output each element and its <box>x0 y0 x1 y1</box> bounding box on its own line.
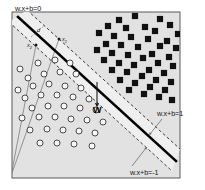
positive-class-point <box>105 23 111 29</box>
negative-class-point <box>77 105 83 111</box>
positive-class-point <box>168 79 174 85</box>
positive-class-point <box>126 87 132 93</box>
negative-class-point <box>60 127 66 133</box>
negative-class-point <box>22 95 28 101</box>
negative-class-point <box>76 128 82 134</box>
positive-class-point <box>142 24 148 30</box>
positive-class-point <box>146 67 152 73</box>
support-point-2-marker <box>35 44 38 47</box>
negative-class-point <box>89 143 95 149</box>
negative-class-point <box>37 140 43 146</box>
negative-class-point <box>71 141 77 147</box>
negative-class-point <box>54 92 60 98</box>
negative-class-point <box>54 140 60 146</box>
negative-class-point <box>92 130 98 136</box>
positive-class-point <box>166 54 172 60</box>
negative-class-point <box>46 81 52 87</box>
negative-class-point <box>52 57 58 63</box>
positive-class-point <box>153 77 159 83</box>
diagram-canvas: w.x+b=0 w.x+b=1 w.x+b=-1 W d x1 x2 <box>0 0 205 190</box>
positive-class-point <box>124 69 130 75</box>
negative-class-point <box>84 117 90 123</box>
positive-class-point <box>152 28 158 34</box>
positive-class-point <box>169 97 175 103</box>
negative-class-point <box>67 60 73 66</box>
negative-class-point <box>52 114 58 120</box>
positive-class-point <box>162 87 168 93</box>
label-margin-positive: w.x+b=1 <box>156 109 183 118</box>
negative-class-point <box>38 92 44 98</box>
negative-class-point <box>78 85 84 91</box>
positive-class-point <box>103 41 109 47</box>
positive-class-point <box>155 60 161 66</box>
positive-class-point <box>117 77 123 83</box>
label-hyperplane: w.x+b=0 <box>14 4 41 13</box>
label-support-point-1-subscript: 1 <box>65 39 67 44</box>
negative-class-point <box>61 103 67 109</box>
negative-class-point <box>15 87 21 93</box>
positive-class-point <box>109 67 115 73</box>
positive-class-point <box>140 55 146 61</box>
positive-class-point <box>161 70 167 76</box>
negative-class-point <box>44 126 50 132</box>
negative-class-point <box>41 71 47 77</box>
positive-class-point <box>118 42 124 48</box>
negative-class-point <box>19 115 25 121</box>
negative-class-point <box>29 105 35 111</box>
positive-class-point <box>94 47 100 53</box>
positive-class-point <box>131 62 137 68</box>
positive-class-point <box>128 34 134 40</box>
negative-class-point <box>100 119 106 125</box>
positive-class-point <box>173 45 179 51</box>
svm-margin-diagram: w.x+b=0 w.x+b=1 w.x+b=-1 W d x1 x2 <box>0 0 205 190</box>
positive-class-point <box>135 44 141 50</box>
support-point-1-marker <box>58 38 61 41</box>
positive-class-point <box>156 94 162 100</box>
negative-class-point <box>27 127 33 133</box>
negative-class-point <box>62 83 68 89</box>
negative-class-point <box>25 75 31 81</box>
positive-class-point <box>111 33 117 39</box>
positive-class-point <box>149 51 155 57</box>
positive-class-point <box>167 22 173 28</box>
negative-class-point <box>17 66 23 72</box>
positive-class-point <box>147 84 153 90</box>
positive-class-point <box>125 52 131 58</box>
positive-class-point <box>116 17 122 23</box>
positive-class-point <box>116 60 122 66</box>
positive-class-point <box>145 36 151 42</box>
positive-class-point <box>164 38 170 44</box>
negative-class-point <box>45 103 51 109</box>
positive-class-point <box>123 25 129 31</box>
label-margin-negative: w.x+b=-1 <box>129 168 158 177</box>
negative-class-point <box>30 83 36 89</box>
label-normal-vector: W <box>93 105 102 115</box>
positive-class-point <box>101 57 107 63</box>
negative-class-point <box>73 71 79 77</box>
negative-class-point <box>36 114 42 120</box>
positive-class-point <box>132 13 138 19</box>
negative-class-point <box>86 96 92 102</box>
positive-class-point <box>170 63 176 69</box>
positive-class-point <box>109 50 115 56</box>
negative-class-point <box>70 94 76 100</box>
positive-class-point <box>157 43 163 49</box>
positive-class-point <box>139 73 145 79</box>
negative-class-point <box>35 60 41 66</box>
positive-class-point <box>141 91 147 97</box>
positive-class-point <box>157 16 163 22</box>
negative-class-point <box>57 69 63 75</box>
positive-class-point <box>96 30 102 36</box>
negative-class-point <box>68 116 74 122</box>
positive-class-point <box>132 80 138 86</box>
